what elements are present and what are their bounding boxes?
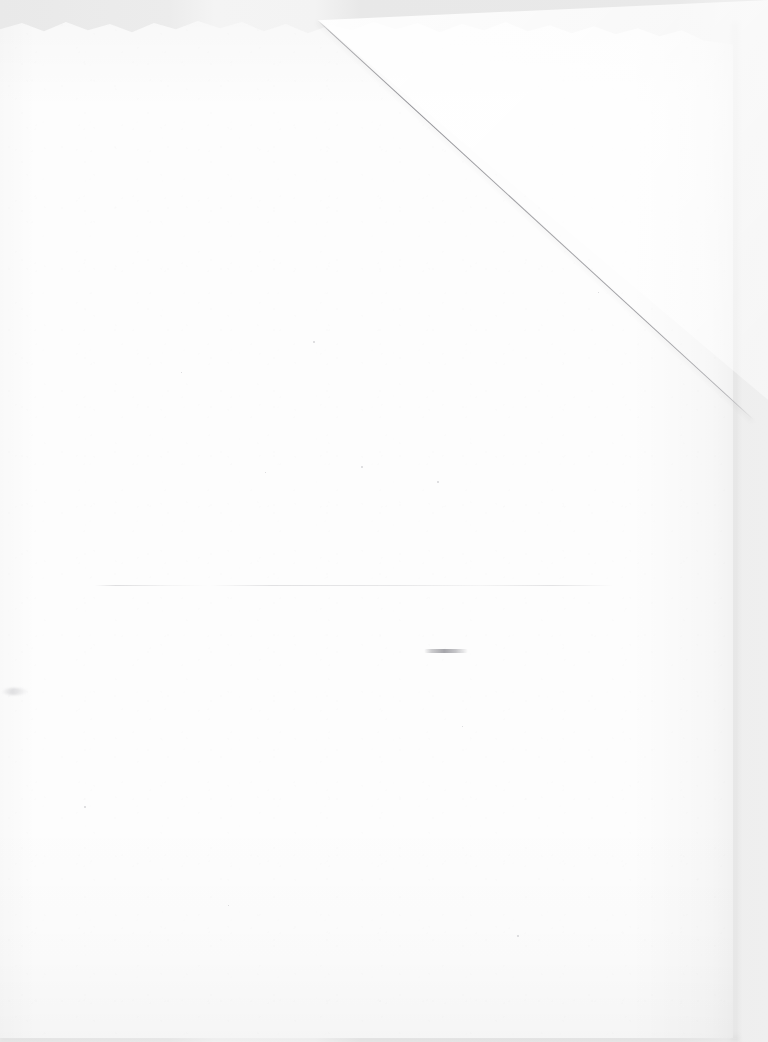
horizontal-crease-line [95,585,615,586]
paper-speck [313,341,315,343]
paper-speck [598,292,599,293]
scanned-page-canvas [0,0,768,1042]
paper-speck [228,905,229,906]
paper-speck [437,481,439,483]
grey-smudge-mark [424,649,468,653]
paper-speck [84,806,86,808]
paper-speck [265,472,266,473]
paper-speck [361,466,363,468]
left-edge-smudge-mark [2,688,28,695]
paper-speck [181,372,182,373]
paper-speck [462,726,463,727]
paper-speck [517,935,519,937]
